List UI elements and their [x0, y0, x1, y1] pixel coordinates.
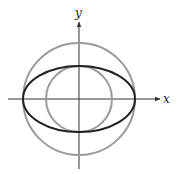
x-axis-label: x [163, 92, 170, 106]
y-axis-label: y [74, 6, 82, 20]
ellipse-diagram: x y [0, 0, 179, 174]
